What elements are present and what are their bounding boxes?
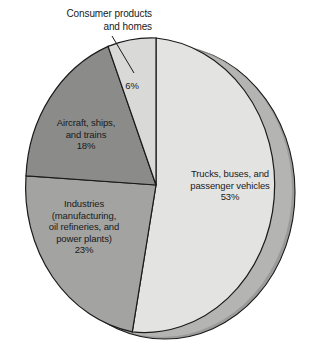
pie-slice-industries[interactable] (26, 176, 156, 332)
pie-chart-figure: Consumer products and homes 6% Aircraft,… (0, 0, 321, 361)
pie-slices (26, 38, 275, 333)
slice-callout-label-consumer: Consumer products and homes (16, 8, 152, 33)
pie-chart-graphic (0, 0, 321, 361)
